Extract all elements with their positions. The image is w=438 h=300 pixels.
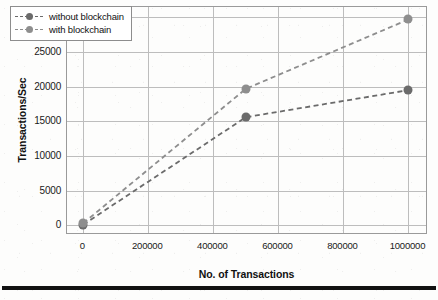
x-tick-label: 0 — [80, 240, 85, 251]
data-point-marker — [241, 113, 250, 122]
series-line — [83, 90, 408, 224]
x-tick-label: 600000 — [262, 240, 293, 251]
data-point-marker — [404, 15, 413, 24]
legend-item-label: without blockchain — [49, 11, 124, 22]
y-tick-label: 5000 — [1, 184, 61, 195]
x-tick-label: 800000 — [327, 240, 358, 251]
legend-item-with-blockchain: with blockchain — [15, 23, 124, 36]
x-tick-label: 200000 — [132, 240, 163, 251]
y-tick-label: 20000 — [1, 80, 61, 91]
data-point-marker — [79, 219, 88, 228]
chart-figure: Transactions/Sec 05000100001500020000250… — [0, 0, 438, 300]
bottom-divider-rule — [2, 286, 436, 290]
data-point-marker — [404, 86, 413, 95]
legend-item-without-blockchain: without blockchain — [15, 10, 124, 23]
data-point-marker — [241, 84, 250, 93]
x-axis-label: No. of Transactions — [66, 268, 427, 280]
y-tick-label: 0 — [1, 219, 61, 230]
y-tick-label: 10000 — [1, 149, 61, 160]
y-tick-label: 15000 — [1, 115, 61, 126]
x-tick-label: 400000 — [197, 240, 228, 251]
legend-item-label: with blockchain — [49, 24, 111, 35]
legend-marker-icon — [15, 24, 43, 35]
y-tick-label: 25000 — [1, 46, 61, 57]
x-tick-label: 1000000 — [390, 240, 426, 251]
chart-legend: without blockchain with blockchain — [10, 6, 132, 41]
legend-marker-icon — [15, 11, 43, 22]
